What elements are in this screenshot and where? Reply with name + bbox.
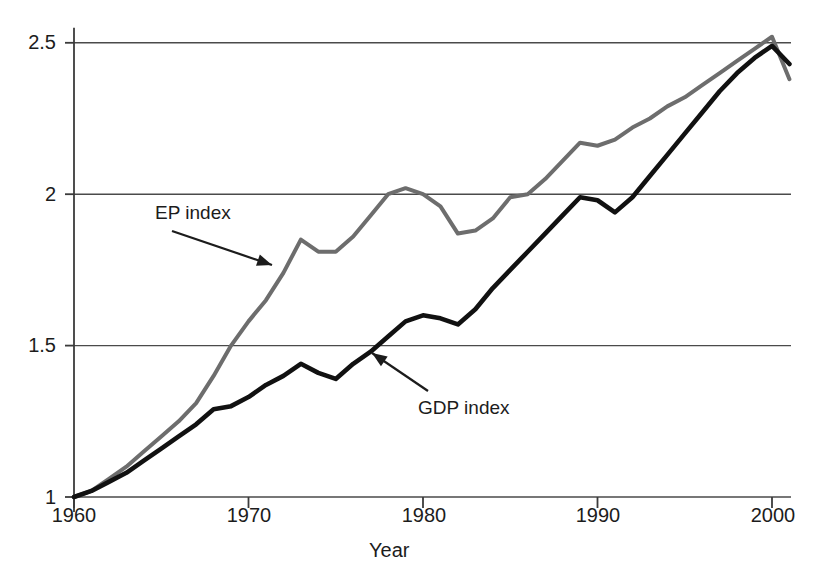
tickmarks-group xyxy=(65,43,772,508)
x-tick-label: 1970 xyxy=(204,505,294,525)
y-tick-label: 1 xyxy=(0,487,56,507)
x-tick-label: 1980 xyxy=(379,505,469,525)
series-group xyxy=(74,37,789,497)
gridlines-group xyxy=(74,43,791,497)
ep-index-annotation-label: EP index xyxy=(155,203,231,222)
series-line-ep-index xyxy=(74,37,789,497)
y-tick-label: 2.5 xyxy=(0,32,56,52)
ep-index-annotation-arrow-head xyxy=(256,255,272,266)
chart-plot-area xyxy=(0,0,823,574)
x-tick-label: 2000 xyxy=(728,505,818,525)
gdp-index-annotation-arrow-head xyxy=(372,353,388,366)
y-tick-label: 1.5 xyxy=(0,335,56,355)
series-line-gdp-index xyxy=(74,46,789,497)
ep-index-annotation-arrow-shaft xyxy=(172,231,272,265)
x-tick-label: 1960 xyxy=(29,505,119,525)
chart-container: 11.522.5 19601970198019902000 Year EP in… xyxy=(0,0,823,574)
x-axis-title: Year xyxy=(369,540,409,560)
x-tick-label: 1990 xyxy=(553,505,643,525)
gdp-index-annotation-label: GDP index xyxy=(418,398,510,417)
y-tick-label: 2 xyxy=(0,184,56,204)
